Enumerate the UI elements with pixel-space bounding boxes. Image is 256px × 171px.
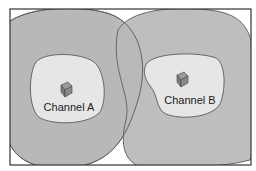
coverage-diagram xyxy=(0,0,256,171)
channel-b-label: Channel B xyxy=(164,94,215,106)
channel-a-label: Channel A xyxy=(44,101,95,113)
